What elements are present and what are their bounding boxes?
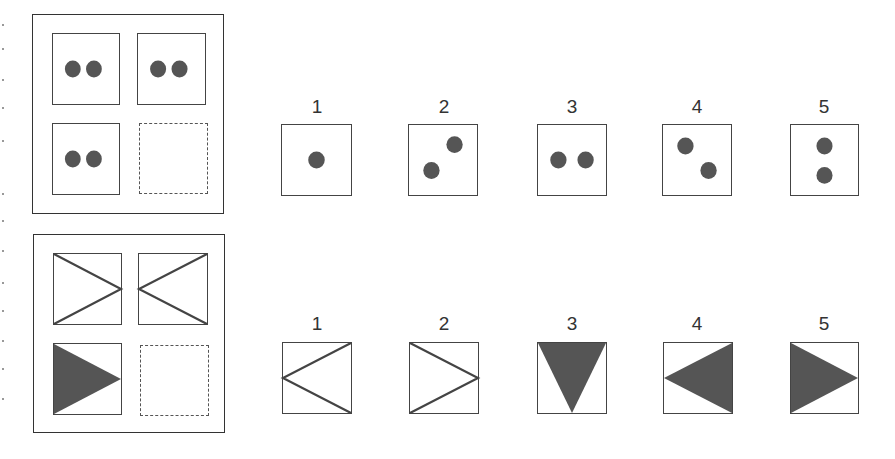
matrix-cell-bottom-left bbox=[53, 343, 122, 415]
dots-icon bbox=[53, 124, 119, 194]
line-chevron-icon bbox=[283, 343, 351, 413]
line-chevron-icon bbox=[139, 254, 207, 324]
matrix-cell-top-right bbox=[138, 253, 208, 325]
option-number: 2 bbox=[408, 96, 480, 118]
filled-triangle-icon bbox=[664, 343, 732, 413]
scan-mark bbox=[2, 282, 4, 284]
dots-icon bbox=[791, 125, 858, 195]
scan-mark bbox=[2, 48, 4, 50]
option-number: 1 bbox=[281, 313, 353, 335]
missing-cell-placeholder bbox=[140, 345, 209, 416]
filled-triangle-icon bbox=[538, 343, 606, 413]
puzzle2-matrix-frame bbox=[33, 234, 225, 433]
matrix-cell-top-right bbox=[137, 33, 206, 105]
puzzle1-matrix-frame bbox=[32, 14, 224, 214]
scan-mark bbox=[2, 250, 4, 252]
option-number: 1 bbox=[281, 96, 353, 118]
filled-triangle-icon bbox=[54, 344, 121, 414]
answer-option-4[interactable] bbox=[663, 342, 733, 414]
dots-icon bbox=[538, 125, 606, 195]
option-number: 5 bbox=[788, 313, 860, 335]
scan-mark bbox=[2, 79, 4, 81]
scan-mark bbox=[2, 398, 4, 400]
answer-option-3[interactable] bbox=[537, 124, 607, 196]
dots-icon bbox=[282, 125, 351, 195]
matrix-cell-top-left bbox=[53, 253, 122, 325]
answer-option-2[interactable] bbox=[409, 342, 479, 414]
answer-option-5[interactable] bbox=[790, 342, 859, 414]
line-chevron-icon bbox=[410, 343, 478, 413]
option-number: 3 bbox=[536, 313, 608, 335]
missing-cell-placeholder bbox=[139, 123, 208, 194]
answer-option-4[interactable] bbox=[662, 124, 732, 196]
dots-icon bbox=[53, 34, 119, 104]
option-number: 4 bbox=[661, 313, 733, 335]
line-chevron-icon bbox=[54, 254, 121, 324]
scan-mark bbox=[2, 24, 4, 26]
scan-mark bbox=[2, 193, 4, 195]
matrix-cell-top-left bbox=[52, 33, 120, 105]
answer-option-1[interactable] bbox=[282, 342, 352, 414]
option-number: 5 bbox=[788, 96, 860, 118]
scan-mark bbox=[2, 220, 4, 222]
dots-icon bbox=[409, 125, 477, 195]
scan-mark bbox=[2, 340, 4, 342]
answer-option-5[interactable] bbox=[790, 124, 859, 196]
option-number: 2 bbox=[408, 313, 480, 335]
matrix-cell-bottom-left bbox=[52, 123, 120, 195]
dots-icon bbox=[663, 125, 731, 195]
dots-icon bbox=[138, 34, 205, 104]
answer-option-1[interactable] bbox=[281, 124, 352, 196]
scan-mark bbox=[2, 368, 4, 370]
scan-mark bbox=[2, 310, 4, 312]
scan-mark bbox=[2, 107, 4, 109]
filled-triangle-icon bbox=[791, 343, 858, 413]
option-number: 4 bbox=[661, 96, 733, 118]
answer-option-2[interactable] bbox=[408, 124, 478, 196]
answer-option-3[interactable] bbox=[537, 342, 607, 414]
scan-mark bbox=[2, 140, 4, 142]
option-number: 3 bbox=[536, 96, 608, 118]
